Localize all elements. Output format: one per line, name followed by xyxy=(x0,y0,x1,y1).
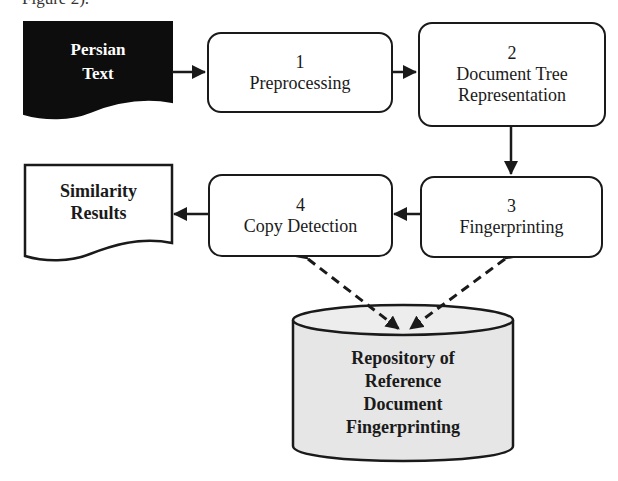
step-4-title: Copy Detection xyxy=(244,216,357,237)
output-label-line1: Similarity xyxy=(25,180,172,202)
step-3-number: 3 xyxy=(507,196,516,217)
input-label-line2: Text xyxy=(24,62,172,86)
step-1-number: 1 xyxy=(296,52,305,73)
input-label-line1: Persian xyxy=(24,38,172,62)
step-3-title: Fingerprinting xyxy=(460,217,564,238)
step-2-title-line1: Document Tree xyxy=(456,64,568,85)
step-2-document-tree: 2 Document Tree Representation xyxy=(418,22,606,127)
input-document: Persian Text xyxy=(24,38,172,86)
repository-line4: Fingerprinting xyxy=(293,416,513,439)
output-document: Similarity Results xyxy=(25,180,172,224)
repository-line3: Document xyxy=(293,393,513,416)
repository-label: Repository of Reference Document Fingerp… xyxy=(293,347,513,439)
step-4-number: 4 xyxy=(296,195,305,216)
step-2-title-line2: Representation xyxy=(458,85,566,106)
repository-line1: Repository of xyxy=(293,347,513,370)
step-4-copy-detection: 4 Copy Detection xyxy=(208,174,393,257)
output-label-line2: Results xyxy=(25,202,172,224)
step-1-preprocessing: 1 Preprocessing xyxy=(207,32,393,113)
step-2-number: 2 xyxy=(508,43,517,64)
repository-line2: Reference xyxy=(293,370,513,393)
step-1-title: Preprocessing xyxy=(250,73,351,94)
step-3-fingerprinting: 3 Fingerprinting xyxy=(420,176,603,258)
